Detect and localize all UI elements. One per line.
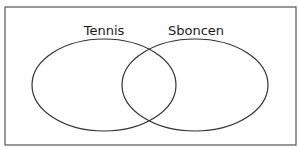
set-ellipse-sboncen [122, 39, 268, 131]
set-label-tennis: Tennis [84, 23, 125, 38]
set-label-sboncen: Sboncen [168, 23, 224, 38]
diagram-frame [5, 7, 296, 145]
venn-diagram [0, 0, 299, 150]
set-ellipse-tennis [32, 39, 176, 131]
